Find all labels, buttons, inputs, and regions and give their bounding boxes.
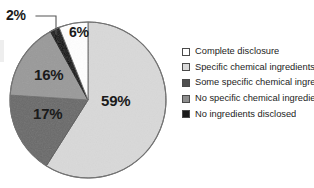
pie-data-label-17: 17% [33, 105, 62, 122]
legend-swatch-icon [182, 95, 190, 103]
pie-data-label-59: 59% [101, 92, 130, 109]
legend-item-label: Specific chemical ingredients [195, 63, 314, 72]
chart-legend: Complete disclosure Specific chemical in… [182, 44, 314, 122]
legend-item-some-specific-chemical-ingredients: Some specific chemical ingredients [182, 75, 314, 91]
legend-item-specific-chemical-ingredients: Specific chemical ingredients [182, 60, 314, 76]
legend-item-label: No ingredients disclosed [195, 110, 296, 119]
legend-item-label: No specific chemical ingredients [195, 94, 314, 103]
pie-chart-figure: 59% 17% 16% 6% 2% Complete disclosure Sp… [0, 0, 314, 188]
legend-swatch-icon [182, 110, 190, 118]
pie-data-label-16: 16% [34, 66, 63, 83]
legend-swatch-icon [182, 79, 190, 87]
legend-item-no-specific-chemical-ingredients: No specific chemical ingredients [182, 91, 314, 107]
legend-swatch-icon [182, 48, 190, 56]
legend-item-no-ingredients-disclosed: No ingredients disclosed [182, 106, 314, 122]
pie-chart-area: 59% 17% 16% 6% 2% [0, 0, 176, 188]
legend-item-complete-disclosure: Complete disclosure [182, 44, 314, 60]
legend-item-label: Complete disclosure [195, 47, 279, 56]
pie-data-label-2: 2% [6, 7, 26, 23]
legend-swatch-icon [182, 63, 190, 71]
pie-data-label-6: 6% [69, 24, 89, 40]
legend-item-label: Some specific chemical ingredients [195, 78, 314, 87]
